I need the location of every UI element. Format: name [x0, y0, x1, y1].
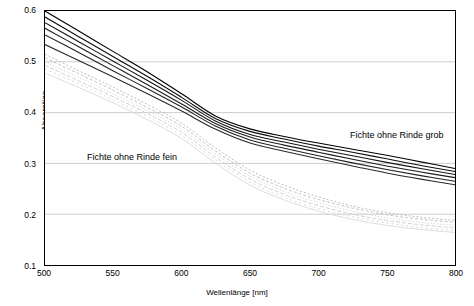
x-tick-label: 750	[380, 268, 394, 278]
series-line-fein-5	[45, 69, 455, 231]
x-tick-label: 600	[174, 268, 188, 278]
x-tick-label: 550	[106, 268, 120, 278]
x-axis-tick-labels: 500550600650700750800	[44, 268, 456, 282]
y-tick-label: 0.5	[0, 56, 36, 66]
y-tick-label: 0.6	[0, 5, 36, 15]
series-line-grob-1	[45, 11, 455, 168]
y-tick-label: 0.4	[0, 107, 36, 117]
x-tick-label: 500	[37, 268, 51, 278]
series-line-grob-2	[45, 17, 455, 171]
x-axis-title: Wellenlänge [nm]	[0, 288, 474, 297]
y-axis-tick-labels: 0.10.20.30.40.50.6	[0, 10, 40, 266]
plot-area: Fichte ohne Rinde fein Fichte ohne Rinde…	[44, 10, 456, 266]
series-line-fein-4	[45, 65, 455, 228]
y-tick-label: 0.2	[0, 210, 36, 220]
x-tick-label: 650	[243, 268, 257, 278]
annotation-fichte-ohne-rinde-fein: Fichte ohne Rinde fein	[87, 152, 177, 162]
y-tick-label: 0.3	[0, 159, 36, 169]
annotation-fichte-ohne-rinde-grob: Fichte ohne Rinde grob	[350, 130, 444, 140]
x-tick-label: 700	[312, 268, 326, 278]
y-tick-label: 0.1	[0, 261, 36, 271]
x-tick-label: 800	[449, 268, 463, 278]
absorption-spectrum-chart: Absorption 0.10.20.30.40.50.6 Fichte ohn…	[0, 0, 474, 306]
